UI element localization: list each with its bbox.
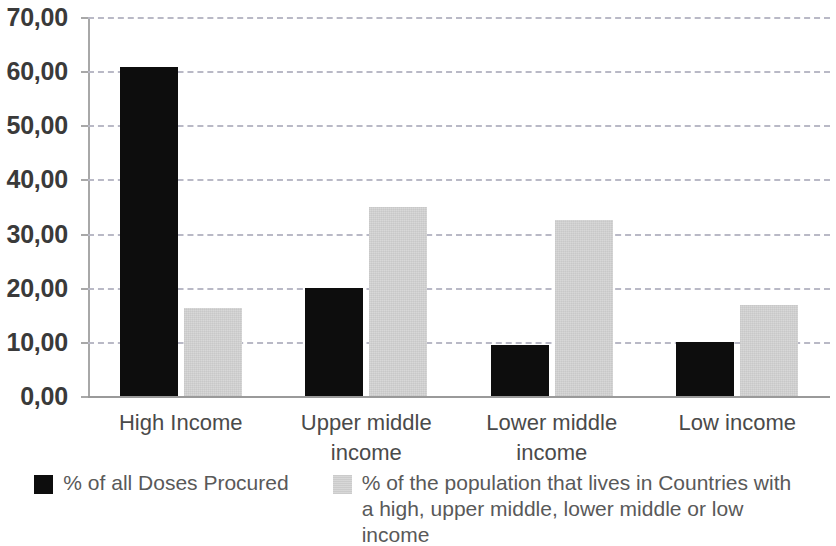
bar-population — [740, 305, 798, 396]
bar-group — [645, 17, 831, 396]
x-axis-line — [88, 396, 830, 398]
y-tick-label: 0,00 — [20, 382, 68, 411]
legend-label-procured: % of all Doses Procured — [63, 470, 288, 496]
y-axis-tick-mark — [81, 17, 88, 19]
y-axis-tick-mark — [81, 288, 88, 290]
bar-procured — [491, 345, 549, 396]
bar-groups — [88, 17, 830, 396]
y-tick-label: 70,00 — [6, 3, 68, 32]
y-tick-label: 50,00 — [6, 111, 68, 140]
y-axis-tick-mark — [81, 342, 88, 344]
x-category-label: High Income — [88, 400, 274, 468]
bar-group — [274, 17, 460, 396]
y-tick-label: 30,00 — [6, 219, 68, 248]
y-axis-tick-mark — [81, 179, 88, 181]
legend-swatch-icon-population — [333, 475, 352, 494]
bar-group — [88, 17, 274, 396]
grid-panel — [88, 17, 830, 396]
y-axis-tick-mark — [81, 396, 88, 398]
x-axis-category-labels: High IncomeUpper middle incomeLower midd… — [88, 400, 830, 468]
y-tick-label: 20,00 — [6, 273, 68, 302]
y-tick-label: 60,00 — [6, 57, 68, 86]
x-category-label: Low income — [645, 400, 831, 468]
y-axis-tick-mark — [81, 71, 88, 73]
bar-population — [369, 207, 427, 397]
y-tick-label: 40,00 — [6, 165, 68, 194]
y-axis-tick-labels: 70,0060,0050,0040,0030,0020,0010,000,00 — [0, 0, 78, 400]
legend-label-population: % of the population that lives in Countr… — [362, 470, 802, 546]
bar-procured — [120, 67, 178, 396]
bar-procured — [305, 288, 363, 396]
y-axis-tick-mark — [81, 125, 88, 127]
chart-legend: % of all Doses Procured % of the populat… — [0, 470, 836, 535]
bar-population — [184, 308, 242, 396]
legend-swatch-icon-procured — [34, 475, 53, 494]
bar-group — [459, 17, 645, 396]
legend-item-population: % of the population that lives in Countr… — [333, 470, 802, 546]
legend-item-procured: % of all Doses Procured — [34, 470, 288, 496]
plot-area: 70,0060,0050,0040,0030,0020,0010,000,00 … — [0, 0, 836, 400]
x-category-label: Lower middle income — [459, 400, 645, 468]
y-axis-tick-mark — [81, 234, 88, 236]
x-category-label: Upper middle income — [274, 400, 460, 468]
bar-population — [555, 220, 613, 396]
y-tick-label: 10,00 — [6, 327, 68, 356]
bar-procured — [676, 342, 734, 396]
